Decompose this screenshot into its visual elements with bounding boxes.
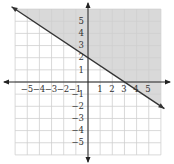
x-tick-label: 2 [109,84,114,94]
x-tick-label: 3 [121,84,126,94]
y-tick-label: −2 [71,101,84,111]
x-axis-left-arrow-icon [3,80,9,85]
y-tick-label: −5 [71,137,84,147]
x-axis-right-arrow-icon [165,80,171,85]
y-tick-label: −3 [71,113,84,123]
x-tick-label: −3 [45,84,58,94]
x-tick-label: 5 [145,84,150,94]
y-tick-label: 1 [79,65,84,75]
y-tick-label: −4 [71,125,84,135]
y-tick-label: −1 [71,89,84,99]
y-tick-label: 2 [79,52,84,62]
x-tick-label: −4 [33,84,46,94]
line-arrow-icon [12,7,18,12]
y-axis-up-arrow-icon [86,2,91,8]
coordinate-plane: −5 −4 −3 −2 −1 1 2 3 4 5 5 4 3 2 1 −1 −2… [0,0,174,164]
x-tick-label: 1 [97,84,102,94]
x-tick-label: −5 [21,84,34,94]
x-tick-label: −2 [57,84,70,94]
y-tick-label: 5 [79,16,84,26]
y-tick-label: 4 [79,28,84,38]
y-axis-down-arrow-icon [86,157,91,163]
y-tick-label: 3 [79,40,84,50]
x-tick-label: 4 [133,84,138,94]
